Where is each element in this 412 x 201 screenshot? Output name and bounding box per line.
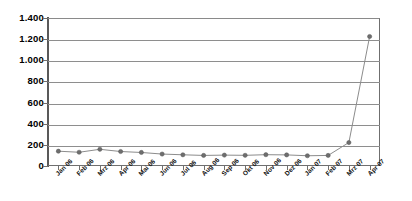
series-markers (56, 34, 371, 157)
data-series (0, 0, 412, 201)
data-point (347, 140, 351, 144)
line-chart: 02004006008001.0001.2001.400 Jan 06Feb 0… (0, 0, 412, 201)
data-point (77, 150, 81, 154)
series-line (58, 37, 369, 156)
data-point (98, 147, 102, 151)
data-point (243, 153, 247, 157)
data-point (56, 149, 60, 153)
data-point (326, 153, 330, 157)
data-point (139, 150, 143, 154)
data-point (181, 153, 185, 157)
data-point (305, 154, 309, 158)
data-point (222, 153, 226, 157)
data-point (264, 153, 268, 157)
data-point (119, 149, 123, 153)
data-point (285, 153, 289, 157)
data-point (202, 153, 206, 157)
data-point (160, 152, 164, 156)
data-point (368, 34, 372, 38)
